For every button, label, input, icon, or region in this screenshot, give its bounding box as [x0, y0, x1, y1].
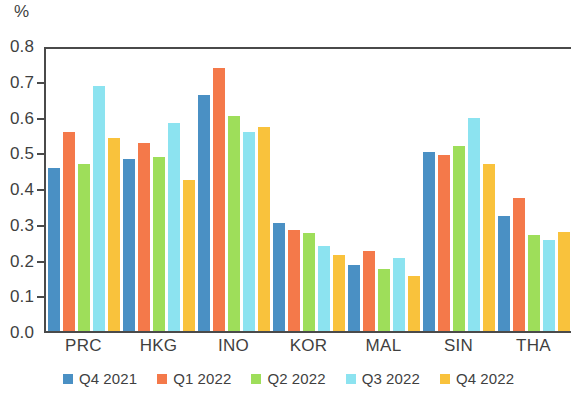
bar — [108, 138, 120, 331]
y-axis: 0.80.70.60.50.40.30.20.10.0 — [0, 47, 44, 333]
bar-chart: % 0.80.70.60.50.40.30.20.10.0 PRCHKGINOK… — [0, 0, 577, 394]
y-axis-tick-label: 0.6 — [10, 109, 34, 129]
bar — [48, 168, 60, 331]
bar-group — [46, 47, 121, 331]
y-axis-unit-label: % — [14, 2, 29, 22]
legend-swatch-icon — [346, 374, 356, 384]
bar — [498, 216, 510, 331]
bar — [63, 132, 75, 331]
bars-layer — [46, 47, 571, 331]
bar — [348, 265, 360, 331]
bar — [168, 123, 180, 331]
y-axis-tick-mark — [37, 225, 44, 227]
x-axis-tick-label: SIN — [444, 336, 473, 356]
bar — [78, 164, 90, 331]
bar — [363, 251, 375, 331]
y-axis-tick-label: 0.5 — [10, 144, 34, 164]
bar — [453, 146, 465, 331]
x-axis-tick-label: INO — [218, 336, 249, 356]
bar — [183, 180, 195, 331]
legend-item[interactable]: Q1 2022 — [157, 370, 231, 387]
bar — [408, 276, 420, 331]
x-axis-tick-label: MAL — [366, 336, 402, 356]
y-axis-tick-label: 0.3 — [10, 216, 34, 236]
legend-label: Q4 2022 — [456, 370, 514, 387]
x-axis-tick-label: THA — [516, 336, 551, 356]
bar — [393, 258, 405, 331]
legend-item[interactable]: Q2 2022 — [251, 370, 325, 387]
bar — [273, 223, 285, 331]
bar — [93, 86, 105, 331]
bar-group — [421, 47, 496, 331]
bar-group — [271, 47, 346, 331]
x-axis-tick-label: KOR — [290, 336, 328, 356]
bar — [468, 118, 480, 331]
x-axis: PRCHKGINOKORMALSINTHA — [46, 336, 571, 362]
bar — [138, 143, 150, 331]
y-axis-tick-mark — [37, 261, 44, 263]
bar — [528, 235, 540, 331]
legend-label: Q3 2022 — [362, 370, 420, 387]
bar — [543, 240, 555, 331]
bar — [258, 127, 270, 331]
bar — [318, 246, 330, 331]
bar — [378, 269, 390, 331]
legend-item[interactable]: Q4 2021 — [63, 370, 137, 387]
legend: Q4 2021Q1 2022Q2 2022Q3 2022Q4 2022 — [0, 370, 577, 387]
bar — [198, 95, 210, 331]
legend-item[interactable]: Q4 2022 — [440, 370, 514, 387]
bar-group — [121, 47, 196, 331]
bar — [243, 132, 255, 331]
bar — [213, 68, 225, 331]
bar — [438, 155, 450, 331]
y-axis-tick-label: 0.1 — [10, 287, 34, 307]
bar-group — [346, 47, 421, 331]
y-axis-tick-label: 0.2 — [10, 252, 34, 272]
legend-label: Q2 2022 — [267, 370, 325, 387]
y-axis-tick-mark — [37, 153, 44, 155]
bar — [303, 233, 315, 331]
bar-group — [196, 47, 271, 331]
legend-swatch-icon — [440, 374, 450, 384]
x-axis-tick-label: PRC — [65, 336, 102, 356]
y-axis-tick-mark — [37, 189, 44, 191]
bar — [333, 255, 345, 331]
bar — [483, 164, 495, 331]
bar — [288, 230, 300, 331]
legend-label: Q1 2022 — [173, 370, 231, 387]
y-axis-tick-mark — [37, 296, 44, 298]
bar — [513, 198, 525, 331]
x-axis-tick-label: HKG — [140, 336, 178, 356]
y-axis-tick-mark — [37, 82, 44, 84]
bar — [558, 232, 570, 331]
y-axis-tick-label: 0.0 — [10, 323, 34, 343]
legend-swatch-icon — [157, 374, 167, 384]
y-axis-tick-label: 0.8 — [10, 37, 34, 57]
bar-group — [496, 47, 571, 331]
bar — [153, 157, 165, 331]
legend-label: Q4 2021 — [79, 370, 137, 387]
legend-item[interactable]: Q3 2022 — [346, 370, 420, 387]
y-axis-tick-label: 0.4 — [10, 180, 34, 200]
legend-swatch-icon — [63, 374, 73, 384]
y-axis-tick-label: 0.7 — [10, 73, 34, 93]
bar — [228, 116, 240, 331]
y-axis-tick-mark — [37, 118, 44, 120]
bar — [423, 152, 435, 331]
bar — [123, 159, 135, 331]
legend-swatch-icon — [251, 374, 261, 384]
